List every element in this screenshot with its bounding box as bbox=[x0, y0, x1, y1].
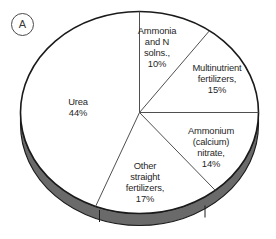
pie-slice-label-multinutrient-fertilizers: Multinutrient fertilizers, 15% bbox=[177, 62, 257, 95]
pie-chart-figure: A Urea 44% Ammonia and N solns., 10% Mul… bbox=[0, 0, 276, 239]
panel-marker-a: A bbox=[11, 13, 34, 36]
pie-slice-label-ammonium-calcium-nitrate: Ammonium (calcium) nitrate, 14% bbox=[171, 125, 251, 169]
pie-slice-label-urea: Urea 44% bbox=[47, 96, 109, 118]
pie-slice-label-other-straight-fertilizers: Other straight fertilizers, 17% bbox=[110, 160, 180, 204]
